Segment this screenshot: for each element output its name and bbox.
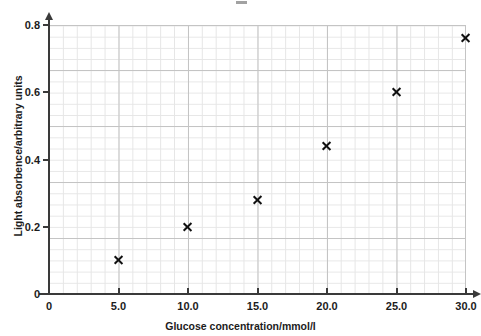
x-tick-mark [187, 288, 189, 295]
data-point-marker [322, 141, 333, 152]
x-tick-label: 10.0 [177, 300, 198, 312]
data-point-marker [461, 33, 472, 44]
x-tick-label: 25.0 [386, 300, 407, 312]
x-tick-label: 15.0 [247, 300, 268, 312]
data-point-marker [113, 255, 124, 266]
y-tick-mark [43, 159, 50, 161]
scatter-chart: 05.010.015.020.025.030.0 00.20.40.60.8 G… [0, 0, 481, 336]
x-tick-label: 20.0 [316, 300, 337, 312]
x-tick-mark [118, 288, 120, 295]
y-axis-title: Light absorbence/arbitrary units [12, 46, 24, 266]
data-point-marker [183, 221, 194, 232]
plot-area [49, 25, 466, 294]
x-tick-mark [465, 288, 467, 295]
x-tick-mark [257, 288, 259, 295]
x-axis-arrow-icon [473, 290, 481, 298]
x-tick-label: 0 [46, 300, 52, 312]
y-tick-mark [43, 24, 50, 26]
y-axis-arrow-icon [45, 12, 53, 20]
x-tick-mark [326, 288, 328, 295]
grid-major [49, 25, 466, 294]
y-tick-label: 0.8 [18, 19, 40, 31]
data-point-marker [391, 87, 402, 98]
scan-artifact-mark [236, 1, 247, 4]
y-tick-label: 0 [18, 288, 40, 300]
x-tick-mark [396, 288, 398, 295]
data-point-marker [252, 194, 263, 205]
x-tick-label: 30.0 [455, 300, 476, 312]
x-tick-label: 5.0 [111, 300, 126, 312]
y-tick-mark [43, 293, 50, 295]
y-tick-mark [43, 91, 50, 93]
x-axis-title: Glucose concentration/mmol/l [0, 320, 481, 332]
y-axis-line [48, 18, 50, 295]
grid-top-edge [49, 25, 466, 26]
grid-right-edge [465, 25, 466, 294]
y-tick-mark [43, 226, 50, 228]
